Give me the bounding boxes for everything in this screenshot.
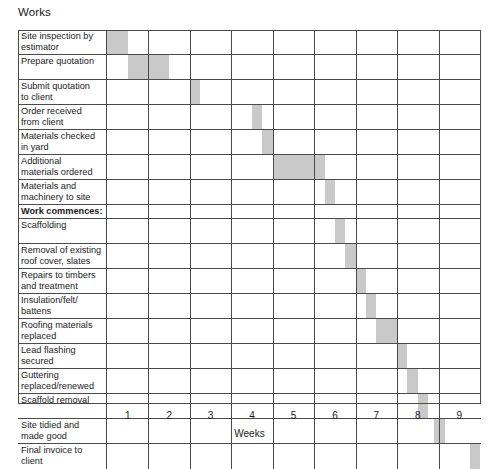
page-title: Works — [18, 6, 51, 18]
row-label-line: from client — [21, 117, 103, 128]
axis-tick-label-8: 8 — [403, 410, 433, 421]
row-label-line: replaced — [21, 331, 103, 342]
gantt-bar-guttering[interactable] — [407, 369, 417, 393]
gantt-bar-materials-machinery[interactable] — [325, 180, 335, 204]
row-label-line: Materials checked — [21, 131, 103, 142]
axis-tick-7 — [397, 404, 398, 409]
row-track-insulation-felt — [107, 294, 481, 318]
row-track-additional-materials — [107, 155, 481, 179]
axis-tick-6 — [356, 404, 357, 409]
row-label-additional-materials: Additionalmaterials ordered — [18, 155, 107, 179]
gantt-row-roofing-materials: Roofing materialsreplaced — [18, 319, 481, 344]
row-track-lead-flashing — [107, 344, 481, 368]
gantt-row-site-inspection: Site inspection byestimator — [18, 30, 481, 55]
gantt-row-materials-checked: Materials checkedin yard — [18, 130, 481, 155]
row-label-materials-checked: Materials checkedin yard — [18, 130, 107, 154]
row-label-repairs-timbers: Repairs to timbersand treatment — [18, 269, 107, 293]
axis-tick-1 — [148, 404, 149, 409]
row-label-submit-quotation: Submit quotationto client — [18, 80, 107, 104]
row-label-site-inspection: Site inspection byestimator — [18, 30, 107, 54]
axis-tick-label-7: 7 — [361, 410, 391, 421]
axis-tick-label-1: 1 — [113, 410, 143, 421]
gantt-row-lead-flashing: Lead flashingsecured — [18, 344, 481, 369]
axis-tick-label-4: 4 — [237, 410, 267, 421]
row-track-removal-roof-cover — [107, 244, 481, 268]
row-label-line: Site inspection by — [21, 31, 103, 42]
gantt-row-removal-roof-cover: Removal of existingroof cover, slates et… — [18, 244, 481, 269]
axis-title: Weeks — [18, 428, 481, 439]
row-label-order-received: Order receivedfrom client — [18, 105, 107, 129]
row-label-line: machinery to site — [21, 192, 103, 203]
axis-tick-label-3: 3 — [196, 410, 226, 421]
row-label-line: Repairs to timbers — [21, 270, 103, 281]
gantt-row-scaffolding: Scaffolding — [18, 219, 481, 244]
row-label-line: Order received — [21, 106, 103, 117]
gantt-grid: Site inspection byestimatorPrepare quota… — [18, 30, 481, 404]
row-label-insulation-felt: Insulation/felt/battens — [18, 294, 107, 318]
gantt-row-submit-quotation: Submit quotationto client — [18, 80, 481, 105]
row-label-materials-machinery: Materials andmachinery to site — [18, 180, 107, 204]
gantt-bar-lead-flashing[interactable] — [397, 344, 407, 368]
row-label-scaffolding: Scaffolding — [18, 219, 107, 243]
row-label-line: battens — [21, 306, 103, 317]
axis-tick-8 — [439, 404, 440, 409]
row-label-line: client — [21, 456, 103, 467]
gantt-bar-materials-checked[interactable] — [262, 130, 272, 154]
row-label-prepare-quotation: Prepare quotation — [18, 55, 107, 79]
gantt-row-work-commences: Work commences: — [18, 205, 481, 219]
gantt-bar-submit-quotation[interactable] — [190, 80, 200, 104]
axis-tick-2 — [190, 404, 191, 409]
row-label-line: estimator — [21, 42, 103, 53]
weeks-axis: 123456789 Weeks — [18, 404, 481, 448]
row-label-work-commences: Work commences: — [18, 205, 107, 218]
gantt-bar-prepare-quotation[interactable] — [128, 55, 169, 79]
row-label-line: in yard — [21, 142, 103, 153]
gantt-bar-removal-roof-cover[interactable] — [345, 244, 355, 268]
row-track-work-commences — [107, 205, 481, 218]
axis-tick-3 — [231, 404, 232, 409]
axis-tick-label-9: 9 — [444, 410, 474, 421]
gantt-row-guttering: Gutteringreplaced/renewed — [18, 369, 481, 394]
row-label-line: to client — [21, 92, 103, 103]
row-track-submit-quotation — [107, 80, 481, 104]
row-label-line: Scaffolding — [21, 220, 103, 231]
gantt-row-insulation-felt: Insulation/felt/battens — [18, 294, 481, 319]
row-track-materials-machinery — [107, 180, 481, 204]
row-label-line: Lead flashing — [21, 345, 103, 356]
gantt-bar-insulation-felt[interactable] — [366, 294, 376, 318]
row-label-line: materials ordered — [21, 167, 103, 178]
axis-tick-4 — [273, 404, 274, 409]
gantt-bar-repairs-timbers[interactable] — [356, 269, 366, 293]
row-track-prepare-quotation — [107, 55, 481, 79]
row-label-removal-roof-cover: Removal of existingroof cover, slates et… — [18, 244, 107, 268]
row-track-repairs-timbers — [107, 269, 481, 293]
row-label-line: Insulation/felt/ — [21, 295, 103, 306]
row-label-line: Guttering — [21, 370, 103, 381]
gantt-bar-scaffolding[interactable] — [335, 219, 345, 243]
axis-tick-label-6: 6 — [320, 410, 350, 421]
axis-tick-label-2: 2 — [154, 410, 184, 421]
row-label-line: roof cover, slates etc — [21, 256, 103, 268]
axis-tick-5 — [314, 404, 315, 409]
row-label-guttering: Gutteringreplaced/renewed — [18, 369, 107, 393]
row-track-scaffolding — [107, 219, 481, 243]
row-label-line: Work commences: — [21, 206, 103, 217]
gantt-bar-roofing-materials[interactable] — [376, 319, 397, 343]
gantt-bar-order-received[interactable] — [252, 105, 262, 129]
row-track-roofing-materials — [107, 319, 481, 343]
gantt-row-additional-materials: Additionalmaterials ordered — [18, 155, 481, 180]
gantt-bar-additional-materials[interactable] — [273, 155, 325, 179]
row-label-line: Submit quotation — [21, 81, 103, 92]
axis-tick-label-5: 5 — [279, 410, 309, 421]
gantt-row-repairs-timbers: Repairs to timbersand treatment — [18, 269, 481, 294]
gantt-row-prepare-quotation: Prepare quotation — [18, 55, 481, 80]
row-label-line: Prepare quotation — [21, 56, 103, 67]
row-label-line: secured — [21, 356, 103, 367]
row-label-lead-flashing: Lead flashingsecured — [18, 344, 107, 368]
gantt-bar-site-inspection[interactable] — [107, 30, 128, 54]
row-track-order-received — [107, 105, 481, 129]
row-label-line: replaced/renewed — [21, 381, 103, 392]
row-label-line: Roofing materials — [21, 320, 103, 331]
row-track-site-inspection — [107, 30, 481, 54]
